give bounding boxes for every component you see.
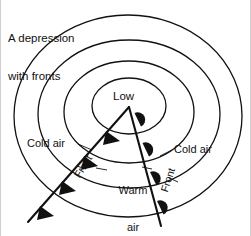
leader-cold-air-right [160, 150, 172, 156]
depression-with-fronts-figure: A depression with fronts Low Cold air Co… [0, 0, 251, 236]
label-warm-air: Warm air [110, 159, 156, 236]
figure-title-line-2: with fronts [8, 70, 75, 83]
label-cold-air-right: Cold air [174, 143, 212, 155]
figure-title-line-1: A depression [8, 32, 75, 45]
label-warm-air-line-2: air [110, 221, 156, 233]
warm-front-semicircle-2 [143, 142, 154, 156]
figure-title: A depression with fronts [8, 6, 75, 109]
cold-front-triangle-3 [59, 181, 76, 195]
label-warm-air-line-1: Warm [110, 184, 156, 196]
leader-warm-air [96, 168, 107, 170]
label-low: Low [113, 90, 134, 103]
cold-front-triangle-4 [37, 206, 54, 220]
warm-front-semicircle-1 [135, 112, 146, 126]
label-cold-air-left: Cold air [27, 137, 65, 149]
